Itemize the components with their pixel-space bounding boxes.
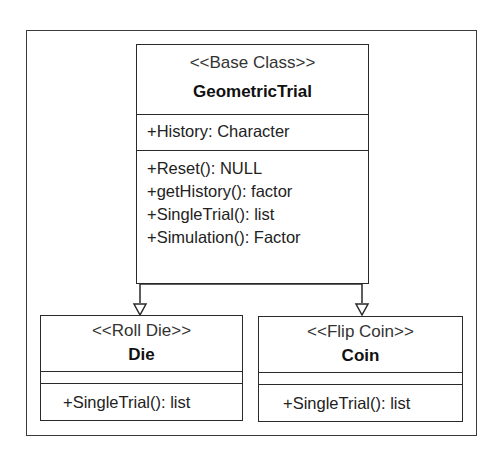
class-methods: +SingleTrial(): list	[259, 385, 462, 414]
die-arrowhead-icon	[134, 304, 146, 315]
method-row: +SingleTrial(): list	[63, 392, 242, 413]
coin-arrowhead-icon	[356, 304, 368, 315]
branch-line	[140, 284, 362, 303]
class-stereotype: <<Roll Die>>	[41, 321, 242, 341]
class-stereotype: <<Flip Coin>>	[259, 322, 462, 342]
class-header: <<Roll Die>> Die	[41, 316, 242, 372]
class-name: Die	[41, 345, 242, 365]
class-methods: +SingleTrial(): list	[41, 384, 242, 413]
class-header: <<Flip Coin>> Coin	[259, 317, 462, 373]
class-attributes	[259, 373, 462, 385]
class-name: Coin	[259, 346, 462, 366]
class-coin: <<Flip Coin>> Coin +SingleTrial(): list	[258, 316, 463, 422]
class-die: <<Roll Die>> Die +SingleTrial(): list	[40, 315, 243, 421]
method-row: +SingleTrial(): list	[283, 393, 462, 414]
class-attributes	[41, 372, 242, 384]
